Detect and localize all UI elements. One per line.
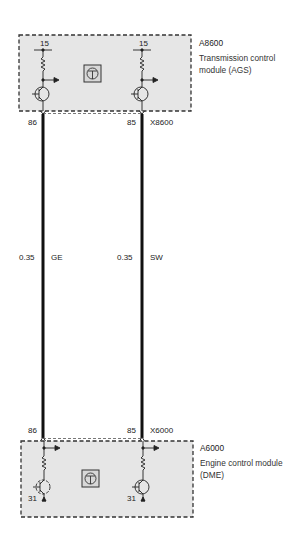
module-id-bottom: A6000 xyxy=(200,443,224,453)
module-name-bottom: Engine control module (DME) xyxy=(200,457,290,481)
pin-bottom-right: 85 xyxy=(127,426,136,436)
wire-ge[interactable] xyxy=(41,111,46,441)
module-a6000[interactable] xyxy=(21,441,193,517)
wire-color-left: GE xyxy=(51,253,63,263)
wire-gauge-left: 0.35 xyxy=(19,253,35,263)
pin-top-right: 85 xyxy=(127,118,136,128)
wire-sw[interactable] xyxy=(140,111,145,441)
wire-color-right: SW xyxy=(150,253,163,263)
ground-label-right-bottom: 31 xyxy=(127,494,136,504)
connector-label-bottom: X6000 xyxy=(150,426,173,436)
ground-label-left-bottom: 31 xyxy=(28,494,37,504)
pin-bottom-left: 86 xyxy=(28,426,37,436)
supply-label-left-top: 15 xyxy=(40,39,49,49)
module-name-top: Transmission control module (AGS) xyxy=(199,52,289,76)
pin-top-left: 86 xyxy=(28,118,37,128)
wire-gauge-right: 0.35 xyxy=(117,253,133,263)
connector-label-top: X8600 xyxy=(150,118,173,128)
control-unit-icon xyxy=(82,470,99,487)
supply-label-right-top: 15 xyxy=(139,39,148,49)
control-unit-icon xyxy=(84,65,101,82)
module-id-top: A8600 xyxy=(199,38,223,48)
